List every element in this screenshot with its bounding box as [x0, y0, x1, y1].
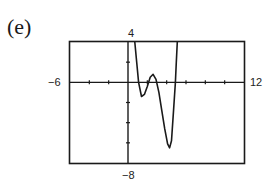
axes: [70, 42, 244, 163]
graph-window: [0, 0, 269, 182]
function-curve: [135, 42, 178, 148]
viewing-window-frame: [70, 42, 245, 164]
